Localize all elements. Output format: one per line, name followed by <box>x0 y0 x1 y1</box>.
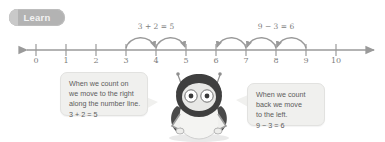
tick-label-6: 6 <box>208 56 224 65</box>
equation-addition: 3 + 2 = 5 <box>138 22 174 31</box>
tick-label-4: 4 <box>148 56 164 65</box>
tick-label-9: 9 <box>298 56 314 65</box>
bubble-left-line-4: 3 + 2 = 5 <box>69 110 140 120</box>
tick-label-3: 3 <box>118 56 134 65</box>
bubble-left-line-2: we move to the right <box>69 89 140 99</box>
tick-label-8: 8 <box>268 56 284 65</box>
jump-arcs-subtraction <box>217 38 306 48</box>
jump-arcs-addition <box>126 38 185 48</box>
speech-bubble-left: When we count on we move to the right al… <box>60 72 148 116</box>
tick-label-2: 2 <box>88 56 104 65</box>
tick-label-10: 10 <box>328 56 344 65</box>
penguin-robot-mascot-icon <box>158 70 240 142</box>
bubble-right-line-4: 9 − 3 = 6 <box>256 121 317 131</box>
bubble-left-line-1: When we count on <box>69 79 140 89</box>
bubble-right-line-1: When we count <box>256 90 317 100</box>
speech-bubble-right: When we count back we move to the left. … <box>247 83 325 126</box>
equation-subtraction: 9 − 3 = 6 <box>258 22 294 31</box>
tick-label-0: 0 <box>28 56 44 65</box>
tick-label-5: 5 <box>178 56 194 65</box>
tick-label-7: 7 <box>238 56 254 65</box>
bubble-right-line-2: back we move <box>256 100 317 110</box>
bubble-right-line-3: to the left. <box>256 110 317 120</box>
bubble-left-line-3: along the number line. <box>69 99 140 109</box>
learn-number-line-panel: Learn <box>0 0 385 142</box>
tick-label-1: 1 <box>58 56 74 65</box>
